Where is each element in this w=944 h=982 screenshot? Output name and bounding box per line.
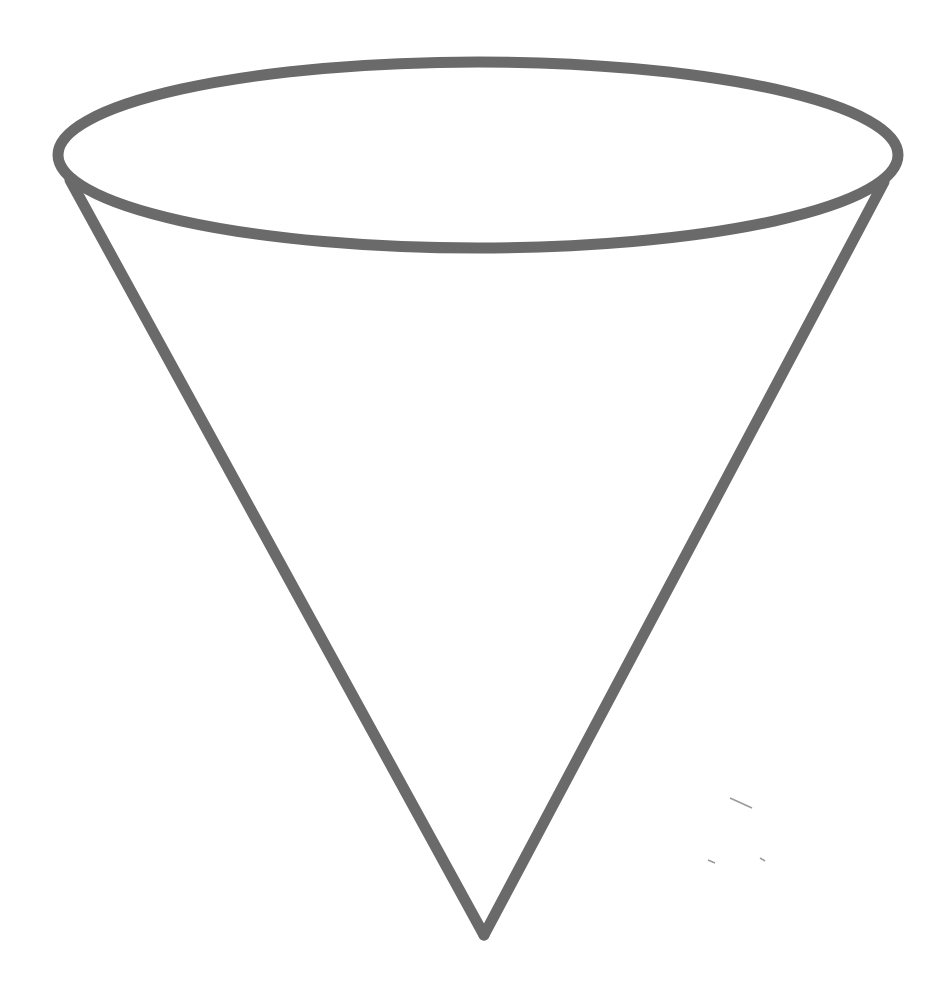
stray-mark (708, 860, 715, 863)
stray-mark (760, 858, 765, 861)
cone-diagram (0, 0, 944, 982)
stray-marks (708, 798, 765, 863)
stray-mark (730, 798, 752, 808)
cone-left-side (70, 180, 484, 935)
cone-rim-ellipse (58, 62, 898, 248)
cone-right-side (484, 182, 884, 935)
